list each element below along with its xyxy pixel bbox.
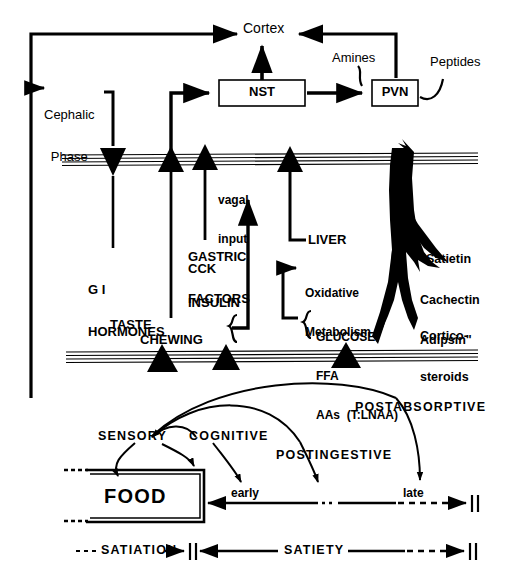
amines-label: Amines xyxy=(332,51,375,65)
cortico-line1: Cortico- xyxy=(420,330,469,344)
vagal-input-label: vagal input xyxy=(218,168,249,272)
arrow-sensory-to-food-alt xyxy=(162,444,194,466)
amines-connector xyxy=(358,66,362,86)
oxidative-metabolism-bracket xyxy=(283,268,298,318)
sensory-label: SENSORY xyxy=(98,430,167,444)
gi-hormones-label: G I HORMONES xyxy=(88,255,165,367)
arrow-vagal-to-nst xyxy=(171,93,209,155)
chewing-label: CHEWING xyxy=(140,333,203,347)
liver-label: LIVER xyxy=(308,233,346,247)
cognitive-label: COGNITIVE xyxy=(189,430,269,444)
vagal-input-line2: input xyxy=(218,233,249,246)
insulin-label: INSULIN xyxy=(188,296,240,310)
up-triangle-liver xyxy=(277,146,303,172)
late-label: late xyxy=(403,487,424,500)
cephalic-phase-line2: Phase xyxy=(44,150,95,164)
satiety-label: SATIETY xyxy=(284,544,344,558)
up-triangle-gastric-factors xyxy=(192,144,218,170)
metabolites-label: GLUCOSE FFA AAs (T:LNAA) xyxy=(316,305,398,447)
up-triangle-chewing xyxy=(212,344,240,370)
satiation-label: SATIATION xyxy=(101,544,177,558)
diagram-canvas: Cortex NST PVN Amines Peptides Cephalic … xyxy=(0,0,508,582)
postabsorptive-label: POSTABSORPTIVE xyxy=(355,401,486,415)
glucose-label: GLUCOSE xyxy=(316,331,398,344)
ffa-label: FFA xyxy=(316,370,398,383)
gi-hormones-line1: G I xyxy=(88,283,165,297)
early-label: early xyxy=(231,487,259,500)
arrow-cognitive-to-early xyxy=(213,443,241,482)
corticosteroids-label: Cortico- steroids xyxy=(420,303,469,411)
peptides-connector xyxy=(420,79,443,99)
cephalic-phase-line1: Cephalic xyxy=(44,108,95,122)
peptides-label: Peptides xyxy=(430,55,481,69)
pvn-label: PVN xyxy=(372,85,418,99)
satietin-line1: "Satietin xyxy=(420,253,480,267)
food-label: FOOD xyxy=(104,486,167,508)
cephalic-phase-label: Cephalic Phase xyxy=(44,80,95,192)
postingestive-label: POSTINGESTIVE xyxy=(276,449,392,463)
up-triangle-gi-hormones xyxy=(158,146,184,172)
cck-label: CCK xyxy=(188,262,216,276)
upper-boundary-band xyxy=(62,153,478,166)
taste-label: TASTE xyxy=(110,318,152,332)
cephalic-phase-efferent xyxy=(100,92,126,248)
cortico-line2: steroids xyxy=(420,371,469,385)
nst-label: NST xyxy=(219,85,305,99)
cortex-label: Cortex xyxy=(243,21,284,36)
liver-afferent xyxy=(277,146,306,240)
oxidative-line1: Oxidative xyxy=(305,287,371,300)
vagal-input-line1: vagal xyxy=(218,194,249,207)
